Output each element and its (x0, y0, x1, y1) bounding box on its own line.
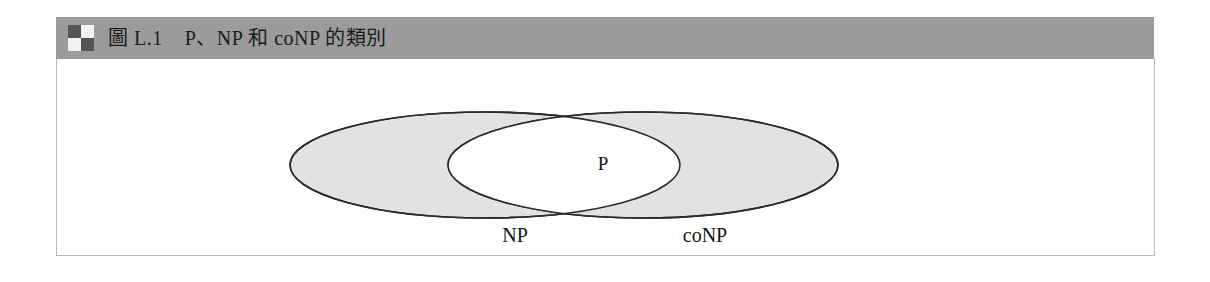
figure-container: 圖 L.1 P、NP 和 coNP 的類別 P N (56, 17, 1155, 256)
venn-label-p: P (598, 153, 609, 174)
venn-diagram-svg: P NP coNP (56, 58, 1155, 256)
checkerboard-icon (68, 25, 94, 51)
figure-caption-bar: 圖 L.1 P、NP 和 coNP 的類別 (56, 17, 1154, 59)
venn-label-np: NP (502, 224, 528, 246)
venn-diagram: P NP coNP (56, 58, 1155, 256)
venn-label-conp: coNP (683, 224, 727, 246)
figure-caption-text: 圖 L.1 P、NP 和 coNP 的類別 (108, 28, 387, 48)
